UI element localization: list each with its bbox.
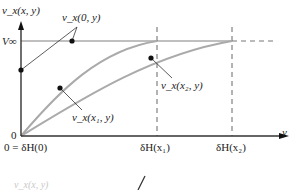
- point-leading-edge-wall: [18, 67, 23, 72]
- point-station-1: [57, 85, 62, 90]
- x-axis-label: y: [282, 127, 287, 138]
- y-axis-label: v_x(x, y): [2, 5, 40, 16]
- leader-line-leading-edge-a: [21, 27, 77, 70]
- y-axis-arrow-icon: [18, 21, 24, 30]
- x-tick-label-2: δH(x₂): [216, 142, 246, 153]
- cropped-fragment-label: v_x(x, y): [14, 180, 48, 190]
- velocity-profile-diagram: [0, 0, 292, 190]
- leading-edge-annotation: v_x(0, y): [62, 12, 100, 23]
- point-station-2: [148, 55, 153, 60]
- origin-label: 0: [11, 130, 17, 141]
- x-tick-label-0: 0 = δH(0): [4, 142, 47, 153]
- x-tick-label-1: δH(x₁): [140, 142, 170, 153]
- station-2-annotation: v_x(x₂, y): [161, 80, 203, 91]
- point-leading-edge-freestream: [69, 38, 74, 43]
- freestream-label: V∞: [2, 36, 17, 47]
- cropped-fragment-line: [138, 176, 145, 190]
- station-1-annotation: v_x(x₁, y): [72, 112, 114, 123]
